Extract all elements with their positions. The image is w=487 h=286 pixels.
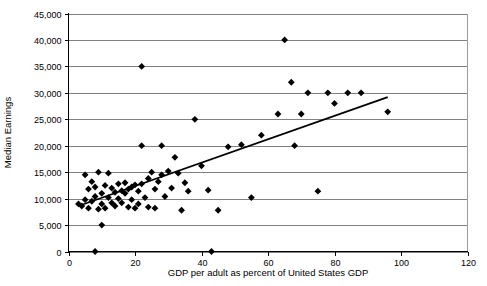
x-axis-ticks: 020406080100120 (67, 252, 476, 268)
data-point (305, 89, 312, 96)
data-point (288, 79, 295, 86)
y-tick-label: 40,000 (34, 36, 62, 46)
data-point (105, 170, 112, 177)
trend-line (78, 97, 387, 206)
data-point (358, 89, 365, 96)
data-point (85, 205, 92, 212)
data-point (298, 111, 305, 118)
data-point (135, 188, 142, 195)
x-axis-title: GDP per adult as percent of United State… (168, 267, 368, 278)
x-tick-label: 100 (394, 258, 409, 268)
data-point (291, 142, 298, 149)
data-point (178, 207, 185, 214)
x-tick-label: 120 (461, 258, 476, 268)
data-point (102, 182, 109, 189)
data-point (314, 188, 321, 195)
y-tick-label: 20,000 (34, 142, 62, 152)
data-point (128, 196, 135, 203)
data-point (88, 178, 95, 185)
y-tick-label: 10,000 (34, 195, 62, 205)
data-point (185, 188, 192, 195)
data-point (138, 142, 145, 149)
data-point (215, 207, 222, 214)
data-point (168, 185, 175, 192)
horizontal-gridlines (69, 15, 468, 253)
data-point (324, 89, 331, 96)
data-point (172, 154, 179, 161)
data-point (95, 206, 102, 213)
data-point (158, 142, 165, 149)
data-point (162, 193, 169, 200)
data-point (125, 204, 132, 211)
y-tick-label: 35,000 (34, 62, 62, 72)
data-point (98, 222, 105, 229)
data-point (344, 89, 351, 96)
data-point (191, 116, 198, 123)
data-point (205, 187, 212, 194)
data-point (152, 186, 159, 193)
data-point (225, 143, 232, 150)
x-tick-label: 40 (197, 258, 207, 268)
y-tick-label: 5,000 (39, 221, 62, 231)
x-tick-label: 0 (67, 258, 72, 268)
y-tick-label: 25,000 (34, 115, 62, 125)
data-point (181, 179, 188, 186)
scatter-chart-figure: 05,00010,00015,00020,00025,00030,00035,0… (0, 0, 487, 286)
data-point (115, 180, 122, 187)
data-point (92, 248, 99, 255)
y-axis-title: Median Earnings (2, 97, 13, 169)
y-tick-label: 30,000 (34, 89, 62, 99)
data-point (281, 37, 288, 44)
data-point (92, 184, 99, 191)
data-point (145, 204, 152, 211)
data-point (258, 132, 265, 139)
x-tick-label: 80 (330, 258, 340, 268)
data-point (384, 108, 391, 115)
y-tick-label: 0 (56, 248, 61, 258)
data-point-series (75, 37, 391, 255)
data-point (208, 248, 215, 255)
x-tick-label: 60 (263, 258, 273, 268)
y-axis-ticks: 05,00010,00015,00020,00025,00030,00035,0… (34, 10, 69, 258)
data-point (98, 190, 105, 197)
y-tick-label: 15,000 (34, 168, 62, 178)
data-point (152, 205, 159, 212)
data-point (148, 169, 155, 176)
data-point (122, 179, 129, 186)
x-tick-label: 20 (130, 258, 140, 268)
data-point (95, 169, 102, 176)
data-point (275, 111, 282, 118)
chart-canvas: 05,00010,00015,00020,00025,00030,00035,0… (0, 0, 487, 286)
data-point (85, 186, 92, 193)
data-point (138, 63, 145, 70)
y-tick-label: 45,000 (34, 10, 62, 20)
data-point (331, 100, 338, 107)
